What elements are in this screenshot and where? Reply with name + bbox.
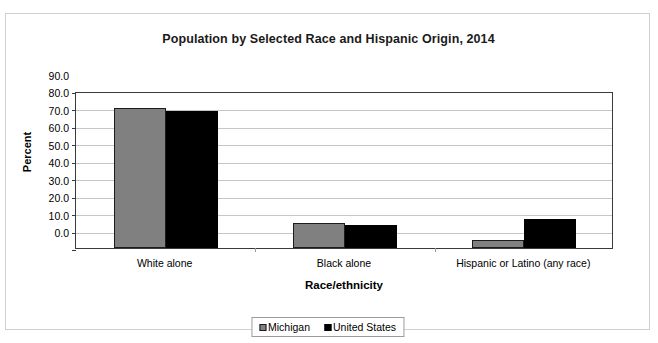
legend-label: United States: [333, 321, 396, 333]
bars-layer: [76, 93, 612, 248]
y-axis-tick-labels: 90.080.070.060.050.040.030.020.010.00.0: [26, 76, 69, 233]
y-tickmark: [72, 145, 76, 146]
y-tickmark: [72, 93, 76, 94]
y-tick-label: 90.0: [26, 71, 69, 81]
category-separator: [435, 248, 436, 252]
legend-label: Michigan: [268, 321, 310, 333]
x-tick-label: Black alone: [254, 257, 433, 269]
y-tick-label: 50.0: [26, 141, 69, 151]
y-tick-label: 80.0: [26, 88, 69, 98]
y-tickmark: [72, 110, 76, 111]
bar[interactable]: [114, 108, 166, 248]
y-tick-label: 60.0: [26, 123, 69, 133]
y-tickmark: [72, 163, 76, 164]
y-tickmark: [72, 233, 76, 234]
bar-group: [293, 93, 397, 248]
plot-area: [75, 92, 613, 249]
bar[interactable]: [524, 219, 576, 248]
y-tick-label: 20.0: [26, 193, 69, 203]
legend-swatch-icon: [259, 324, 266, 331]
category-separator: [255, 248, 256, 252]
legend-entry[interactable]: Michigan: [259, 321, 310, 333]
x-tick-label: White alone: [75, 257, 254, 269]
x-tick-label: Hispanic or Latino (any race): [434, 257, 613, 269]
y-tick-label: 10.0: [26, 211, 69, 221]
y-tickmark: [72, 250, 76, 251]
bar-group: [472, 93, 576, 248]
legend-entry[interactable]: United States: [324, 321, 396, 333]
bar[interactable]: [293, 223, 345, 248]
y-tick-label: 0.0: [26, 228, 69, 238]
y-tickmark: [72, 198, 76, 199]
bar[interactable]: [472, 240, 524, 248]
y-tick-label: 40.0: [26, 158, 69, 168]
x-axis-tick-labels: White aloneBlack aloneHispanic or Latino…: [75, 257, 613, 273]
y-tickmark: [72, 128, 76, 129]
legend-swatch-icon: [324, 324, 331, 331]
y-tick-label: 70.0: [26, 106, 69, 116]
y-tickmark: [72, 215, 76, 216]
x-axis-title: Race/ethnicity: [75, 279, 613, 291]
chart-title: Population by Selected Race and Hispanic…: [6, 32, 651, 46]
bar[interactable]: [345, 225, 397, 248]
chart-figure-frame: Population by Selected Race and Hispanic…: [5, 13, 650, 330]
y-tickmark: [72, 180, 76, 181]
y-tick-label: 30.0: [26, 176, 69, 186]
chart-legend: MichiganUnited States: [251, 317, 404, 337]
bar[interactable]: [166, 111, 218, 248]
bar-group: [114, 93, 218, 248]
